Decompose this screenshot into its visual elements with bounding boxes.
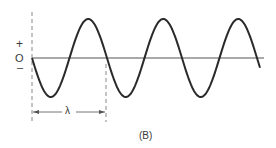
wavelength-label: λ	[65, 106, 70, 116]
minus-label: –	[17, 62, 23, 73]
arrowhead-left-icon	[33, 110, 39, 114]
plus-label: +	[16, 38, 23, 50]
arrowhead-right-icon	[99, 110, 105, 114]
panel-label: (B)	[139, 131, 152, 141]
sine-wave-diagram	[0, 0, 276, 148]
